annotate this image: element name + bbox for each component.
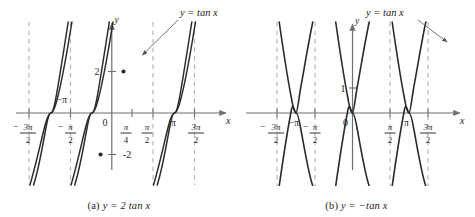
caption-b: (b) y = −tan x — [238, 200, 475, 211]
denom: 2 — [274, 135, 279, 145]
numer: 3π — [422, 122, 433, 132]
caption-a: (a) y = 2 tan x — [0, 200, 238, 211]
sign-neg: − — [13, 122, 18, 132]
denom: 2 — [194, 135, 199, 145]
y-tick-label-neg2: -2 — [123, 149, 131, 160]
x-tick-label-neg-3pi-2-a: − 3π 2 — [13, 122, 36, 145]
sign-neg: − — [303, 122, 308, 132]
x-label-pi-a: π — [171, 118, 176, 128]
curves-a — [30, 22, 196, 185]
denom: 2 — [145, 135, 150, 145]
annotation-label-a: y = tan x — [179, 7, 218, 18]
denom: 2 — [388, 135, 393, 145]
denom: 4 — [124, 135, 129, 145]
curve-tanx-branch-pi — [392, 22, 426, 186]
numer: 3π — [22, 122, 33, 132]
denom: 2 — [26, 135, 31, 145]
numer: 3π — [190, 122, 201, 132]
sign-neg: − — [58, 122, 63, 132]
x-tick-label-neg-3pi-2-b: − 3π 2 — [260, 122, 284, 145]
plot-a: y = tan x y x 0 2 -2 −π π − 3π 2 — [0, 0, 238, 217]
caption-a-prefix: (a) — [88, 200, 100, 211]
denom: 2 — [313, 135, 318, 145]
x-tick-label-pi-2-a: π 2 — [142, 122, 153, 145]
x-tick-label-3pi-2-a: 3π 2 — [188, 122, 204, 145]
x-label-neg-pi-b: −π — [289, 118, 299, 128]
annotation-arrow-a — [143, 20, 179, 55]
origin-label-b: 0 — [343, 117, 348, 128]
curve-tanx-branch--pi — [279, 22, 313, 186]
numer: 3π — [270, 122, 281, 132]
curve-2tanx-branch-0 — [75, 22, 110, 185]
numer: π — [313, 122, 318, 132]
y-axis-label-b: y — [354, 16, 360, 26]
curve-tanx-branch-pi — [154, 22, 196, 185]
x-tick-label-neg-pi-2-b: − π 2 — [303, 122, 321, 145]
point-neg-pi-4-neg-2 — [99, 152, 103, 156]
figure-container: y = tan x y x 0 2 -2 −π π − 3π 2 — [0, 0, 475, 217]
plot-b: y = tan x y x 0 1 −π π − 3π 2 − π 2 — [238, 0, 475, 217]
numer: π — [388, 122, 393, 132]
annotation-label-b: y = tan x — [365, 7, 404, 18]
y-tick-label-2: 2 — [95, 66, 100, 77]
numer: π — [124, 122, 129, 132]
point-pi-4-2 — [121, 69, 125, 73]
x-tick-label-neg-pi-2-a: − π 2 — [58, 122, 76, 145]
x-axis-label-b: x — [459, 115, 465, 126]
curve-tanx-branch-0 — [71, 22, 113, 185]
x-axis-label-a: x — [225, 115, 231, 126]
numer: π — [68, 122, 73, 132]
curve-2tanx-branch-pi — [157, 22, 192, 185]
y-axis-label-a: y — [114, 15, 120, 25]
panel-a: y = tan x y x 0 2 -2 −π π − 3π 2 — [0, 0, 238, 217]
denom: 2 — [426, 135, 431, 145]
axes-a — [16, 23, 226, 170]
x-tick-label-pi-4-a: π 4 — [121, 122, 132, 145]
numer: π — [145, 122, 150, 132]
sign-neg: − — [260, 122, 265, 132]
origin-label-a: 0 — [103, 117, 108, 128]
y-tick-label-1: 1 — [341, 83, 346, 94]
denom: 2 — [68, 135, 73, 145]
x-label-neg-pi-a: −π — [57, 95, 67, 105]
panel-b: y = tan x y x 0 1 −π π − 3π 2 − π 2 — [238, 0, 475, 217]
caption-b-text: y = −tan x — [341, 200, 388, 211]
caption-a-text: y = 2 tan x — [103, 200, 151, 211]
caption-b-prefix: (b) — [325, 200, 338, 211]
x-label-pi-b: π — [404, 118, 409, 128]
axes-b — [246, 24, 460, 170]
